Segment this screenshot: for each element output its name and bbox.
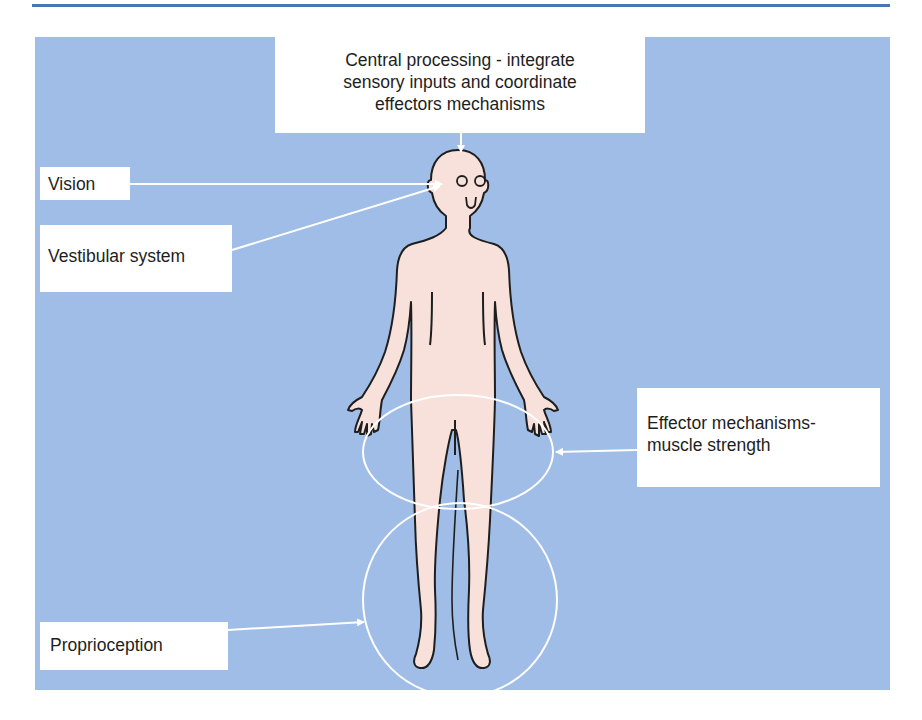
proprioception-label: Proprioception <box>40 622 228 670</box>
effector-line-1: Effector mechanisms- <box>647 412 880 434</box>
vision-label: Vision <box>40 167 130 200</box>
vestibular-system-label: Vestibular system <box>40 225 232 292</box>
effector-mechanisms-label: Effector mechanisms- muscle strength <box>637 388 880 487</box>
central-line-2: sensory inputs and coordinate <box>275 71 645 93</box>
human-figure <box>348 150 558 668</box>
body-outline <box>348 150 558 668</box>
vestibular-arrow <box>232 186 440 250</box>
effector-line-2: muscle strength <box>647 434 880 456</box>
proprioception-circle <box>363 503 557 697</box>
central-processing-label: Central processing - integrate sensory i… <box>275 37 645 133</box>
annotation-lines <box>130 133 637 697</box>
proprioception-arrow <box>228 622 364 630</box>
effector-arrow <box>556 450 637 452</box>
central-line-1: Central processing - integrate <box>275 49 645 71</box>
central-line-3: effectors mechanisms <box>275 93 645 115</box>
